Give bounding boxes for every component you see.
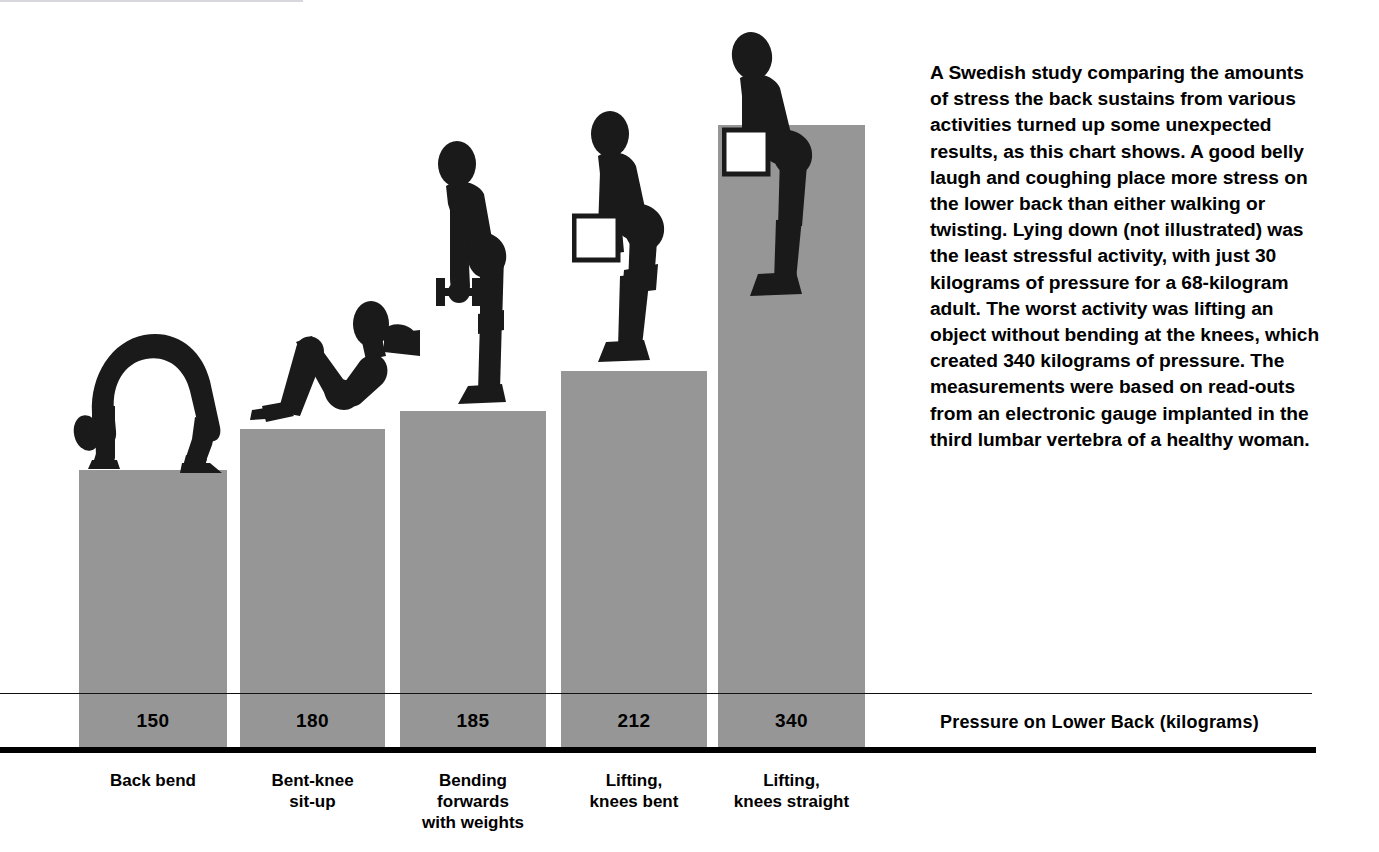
bar-label-line-1: Back bend xyxy=(69,770,237,791)
bar-back-bend xyxy=(79,470,227,747)
bar-label-line-1: Lifting, xyxy=(551,770,717,791)
bar-value-back-bend: 150 xyxy=(79,710,227,732)
bar-label-line-2: knees straight xyxy=(703,791,880,812)
bar-value-lifting-knees-bent: 212 xyxy=(561,710,707,732)
bar-value-lifting-knees-straight: 340 xyxy=(718,710,865,732)
bar-label-bending-forwards-with-weights: Bending forwards with weights xyxy=(390,770,556,833)
axis-title: Pressure on Lower Back (kilograms) xyxy=(940,712,1320,733)
bending-forwards-with-weights-figure xyxy=(428,140,538,415)
back-bend-figure xyxy=(70,305,235,473)
lifting-knees-straight-figure xyxy=(722,30,837,308)
bar-label-line-3: with weights xyxy=(390,812,556,833)
bar-value-bent-knee-sit-up: 180 xyxy=(240,710,385,732)
top-edge-rule xyxy=(0,0,303,2)
bar-label-lifting-knees-bent: Lifting, knees bent xyxy=(551,770,717,812)
bar-label-lifting-knees-straight: Lifting, knees straight xyxy=(703,770,880,812)
bent-knee-sit-up-figure xyxy=(238,290,420,430)
bar-label-back-bend: Back bend xyxy=(69,770,237,791)
bar-bent-knee-sit-up xyxy=(240,429,385,747)
bar-value-bending-forwards-with-weights: 185 xyxy=(400,710,546,732)
bar-label-line-1: Lifting, xyxy=(703,770,880,791)
axis-thin-rule xyxy=(0,693,1312,694)
chart-area: 150 180 185 212 340 Back bend Bent-knee … xyxy=(0,0,1379,852)
lifting-knees-bent-figure xyxy=(572,110,687,372)
bar-label-line-2: sit-up xyxy=(230,791,395,812)
axis-baseline-rule xyxy=(0,747,1316,753)
bar-label-line-1: Bent-knee xyxy=(230,770,395,791)
bar-label-line-2: forwards xyxy=(390,791,556,812)
description-text: A Swedish study comparing the amounts of… xyxy=(930,60,1322,453)
bar-bending-forwards-with-weights xyxy=(400,411,546,747)
bar-label-bent-knee-sit-up: Bent-knee sit-up xyxy=(230,770,395,812)
bar-label-line-2: knees bent xyxy=(551,791,717,812)
bar-lifting-knees-bent xyxy=(561,371,707,747)
bar-label-line-1: Bending xyxy=(390,770,556,791)
